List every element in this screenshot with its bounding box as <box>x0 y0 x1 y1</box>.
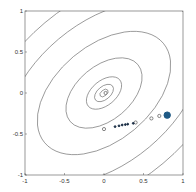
data-point-iterates-open <box>104 91 107 94</box>
x-tick-label: -1 <box>22 178 28 184</box>
data-point-start <box>164 112 170 118</box>
x-axis-ticks: -1-0.500.51 <box>22 173 185 184</box>
data-point-iterates-dark <box>121 124 123 126</box>
contour-line <box>0 0 196 192</box>
y-tick-label: 0 <box>20 90 24 96</box>
contour-lines <box>0 0 196 192</box>
x-tick-label: -0.5 <box>59 178 70 184</box>
data-point-iterates-open <box>102 127 105 130</box>
y-tick-label: 1 <box>20 8 24 14</box>
data-point-iterates-dark <box>132 122 134 124</box>
x-tick-label: 0.5 <box>139 178 148 184</box>
y-tick-label: -0.5 <box>13 131 24 137</box>
data-point-iterates-dark <box>127 123 129 125</box>
data-point-iterates-open <box>150 117 153 120</box>
data-point-iterates-open <box>158 114 161 117</box>
x-tick-label: 0 <box>102 178 106 184</box>
x-tick-label: 1 <box>181 178 185 184</box>
data-point-iterates-dark <box>114 126 116 128</box>
contour-chart: -1-0.500.51 10.50-0.5-1 <box>0 0 196 192</box>
data-point-iterates-dark <box>124 124 126 126</box>
data-point-iterates-dark <box>118 125 120 127</box>
contour-line <box>0 0 196 192</box>
y-tick-label: 0.5 <box>15 49 24 55</box>
data-points <box>102 91 170 130</box>
y-tick-label: -1 <box>18 172 24 178</box>
